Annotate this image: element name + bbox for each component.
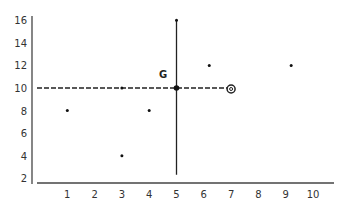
x-tick-label: 10 xyxy=(307,189,320,200)
y-tick-label: 12 xyxy=(14,60,27,71)
x-tick-label: 1 xyxy=(64,189,70,200)
x-tick-label: 7 xyxy=(228,189,234,200)
y-tick-label: 10 xyxy=(14,83,27,94)
x-tick-label: 3 xyxy=(119,189,125,200)
data-point xyxy=(148,109,151,112)
data-point xyxy=(120,87,123,90)
y-tick-label: 8 xyxy=(21,106,27,117)
data-point xyxy=(290,64,293,67)
y-axis-ticks: 246810121416 xyxy=(14,15,27,184)
data-point xyxy=(208,64,211,67)
reference-lines xyxy=(37,20,227,175)
highlight-point-g xyxy=(174,85,180,91)
data-point xyxy=(66,109,69,112)
x-tick-label: 8 xyxy=(255,189,261,200)
circle-marker-icon xyxy=(227,85,235,93)
data-point xyxy=(175,19,178,22)
scatter-chart: 246810121416 12345678910 G xyxy=(0,0,344,204)
y-tick-label: 14 xyxy=(14,38,27,49)
data-point xyxy=(120,154,123,157)
y-tick-label: 16 xyxy=(14,15,27,26)
y-tick-label: 6 xyxy=(21,128,27,139)
point-g xyxy=(174,85,180,91)
x-tick-label: 2 xyxy=(91,189,97,200)
y-tick-label: 4 xyxy=(21,151,27,162)
x-tick-label: 4 xyxy=(146,189,152,200)
x-tick-label: 9 xyxy=(283,189,289,200)
x-tick-label: 5 xyxy=(173,189,179,200)
y-tick-label: 2 xyxy=(21,173,27,184)
annotations: G xyxy=(159,69,167,80)
axes xyxy=(32,16,334,184)
x-tick-label: 6 xyxy=(201,189,207,200)
x-axis-ticks: 12345678910 xyxy=(64,189,319,200)
point-label: G xyxy=(159,69,167,80)
circle-marker-outer xyxy=(227,85,235,93)
